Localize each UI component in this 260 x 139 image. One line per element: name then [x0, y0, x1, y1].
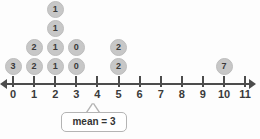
data-dot: 2	[110, 58, 127, 75]
axis-tick-4	[96, 76, 98, 87]
data-dot: 1	[47, 58, 64, 75]
axis-tick-11	[244, 76, 246, 87]
axis-tick-8	[181, 76, 183, 87]
data-dot: 7	[216, 58, 233, 75]
axis-tick-2	[54, 76, 56, 87]
axis-tick-10	[223, 76, 225, 87]
data-dot: 1	[47, 20, 64, 37]
data-dot: 2	[26, 39, 43, 56]
axis-tick-6	[139, 76, 141, 87]
axis-tick-1	[33, 76, 35, 87]
axis-tick-0	[12, 76, 14, 87]
axis-tick-7	[160, 76, 162, 87]
axis-line	[4, 83, 250, 85]
data-dot: 0	[68, 58, 85, 75]
data-dot: 2	[110, 39, 127, 56]
dot-plot-figure: 01234567891011 322111100227 mean = 3	[0, 0, 260, 139]
data-dot: 1	[47, 1, 64, 18]
data-dot: 3	[5, 58, 22, 75]
data-dot: 1	[47, 39, 64, 56]
axis-tick-3	[75, 76, 77, 87]
mean-callout: mean = 3	[61, 112, 127, 132]
axis-tick-5	[118, 76, 120, 87]
axis-tick-9	[202, 76, 204, 87]
data-dot: 0	[68, 39, 85, 56]
axis-tick-label-11: 11	[233, 88, 257, 101]
data-dot: 2	[26, 58, 43, 75]
